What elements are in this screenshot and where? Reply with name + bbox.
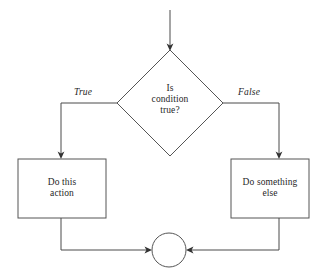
process-false-node xyxy=(231,159,309,218)
false-branch-connector xyxy=(223,103,282,159)
decision-node xyxy=(117,50,223,156)
flowchart-canvas: Is condition true? Do this action Do som… xyxy=(0,0,327,272)
flowchart-graphics xyxy=(0,0,327,272)
true-branch-connector xyxy=(58,103,117,159)
false-branch-label: False xyxy=(238,87,260,98)
true-return-connector xyxy=(61,218,152,253)
merge-node xyxy=(152,233,186,267)
true-branch-label: True xyxy=(74,87,92,98)
false-return-connector xyxy=(186,218,279,253)
entry-connector xyxy=(167,10,174,51)
process-true-node xyxy=(18,159,106,218)
